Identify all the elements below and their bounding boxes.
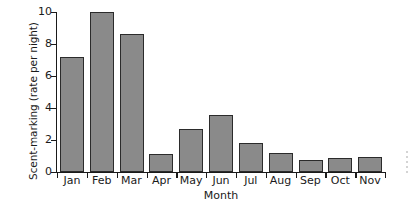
y-axis-tick-mark xyxy=(51,108,57,109)
y-axis-tick-mark xyxy=(51,12,57,13)
bar-oct xyxy=(328,158,352,172)
y-axis-tick-label: 4 xyxy=(26,103,52,113)
y-axis-tick-mark xyxy=(51,44,57,45)
bar-feb xyxy=(90,12,114,172)
x-axis-title: Month xyxy=(0,189,411,202)
y-axis-line xyxy=(56,12,57,173)
y-axis-tick-label: 8 xyxy=(26,39,52,49)
bar-aug xyxy=(269,153,293,172)
bar-chart-figure: Scent-marking (rate per night) 0246810 M… xyxy=(0,0,411,212)
x-axis-tick-label-nov: Nov xyxy=(355,174,385,187)
x-axis-tick-label-mar: Mar xyxy=(117,174,147,187)
y-axis-tick-mark xyxy=(51,140,57,141)
x-axis-tick-label-jul: Jul xyxy=(236,174,266,187)
bar-sep xyxy=(299,160,323,172)
bar-mar xyxy=(120,34,144,172)
x-axis-tick-label-sep: Sep xyxy=(296,174,326,187)
x-axis-tick-label-jan: Jan xyxy=(57,174,87,187)
x-axis-tick-label-oct: Oct xyxy=(325,174,355,187)
bar-jul xyxy=(239,143,263,172)
y-axis-tick-label: 2 xyxy=(26,135,52,145)
cropped-neighbor-figure-fragment xyxy=(405,148,411,182)
x-axis-tick-label-aug: Aug xyxy=(266,174,296,187)
bar-jan xyxy=(60,57,84,172)
bar-may xyxy=(179,129,203,172)
x-axis-tick-label-feb: Feb xyxy=(87,174,117,187)
x-axis-tick-label-may: May xyxy=(176,174,206,187)
x-axis-tick-mark xyxy=(385,173,386,178)
x-axis-tick-label-jun: Jun xyxy=(206,174,236,187)
bar-jun xyxy=(209,115,233,172)
y-axis-tick-label: 10 xyxy=(26,7,52,17)
bar-apr xyxy=(149,154,173,172)
bar-nov xyxy=(358,157,382,172)
y-axis-tick-label: 6 xyxy=(26,71,52,81)
y-axis-tick-mark xyxy=(51,76,57,77)
x-axis-tick-label-apr: Apr xyxy=(147,174,177,187)
plot-area xyxy=(57,12,385,172)
y-axis-tick-label: 0 xyxy=(26,167,52,177)
y-axis-tick-labels: 0246810 xyxy=(26,0,52,212)
